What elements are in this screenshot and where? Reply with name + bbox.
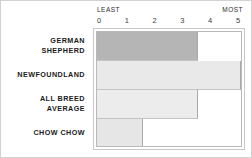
bar-track (97, 32, 241, 61)
category-label-line: ALL BREED (40, 94, 85, 104)
axis-endcap-most: MOST (222, 6, 243, 13)
x-axis-tick-3: 3 (180, 16, 184, 25)
bar-german-shepherd (97, 32, 198, 61)
x-axis-tick-1: 1 (125, 16, 129, 25)
category-label-column: GERMANSHEPHERDNEWFOUNDLANDALL BREEDAVERA… (1, 28, 93, 150)
plot-frame (93, 28, 245, 150)
bar-all-breed-average (97, 90, 198, 119)
category-label-line: AVERAGE (47, 104, 85, 114)
category-label-all-breed-average: ALL BREEDAVERAGE (1, 89, 85, 118)
x-axis-tick-5: 5 (236, 16, 240, 25)
bar-track (97, 90, 241, 119)
category-label-line: GERMAN (50, 36, 85, 46)
axis-endcap-least: LEAST (97, 6, 120, 13)
category-label-line: CHOW CHOW (33, 128, 85, 138)
category-label-newfoundland: NEWFOUNDLAND (1, 60, 85, 89)
plot-area (96, 31, 242, 147)
x-axis-tick-4: 4 (208, 16, 212, 25)
category-label-german-shepherd: GERMANSHEPHERD (1, 31, 85, 60)
x-axis-tick-0: 0 (97, 16, 101, 25)
x-axis-tick-row: 012345 (95, 16, 243, 28)
chart-figure: LEAST MOST 012345 GERMANSHEPHERDNEWFOUND… (0, 0, 252, 158)
bar-newfoundland (97, 61, 241, 90)
bar-chow-chow (97, 119, 143, 147)
x-axis-tick-2: 2 (153, 16, 157, 25)
bar-track (97, 61, 241, 90)
category-label-chow-chow: CHOW CHOW (1, 118, 85, 147)
category-label-line: SHEPHERD (41, 46, 85, 56)
category-label-line: NEWFOUNDLAND (17, 70, 85, 80)
bar-track (97, 119, 241, 147)
chart-axis-header: LEAST MOST 012345 (95, 6, 243, 28)
